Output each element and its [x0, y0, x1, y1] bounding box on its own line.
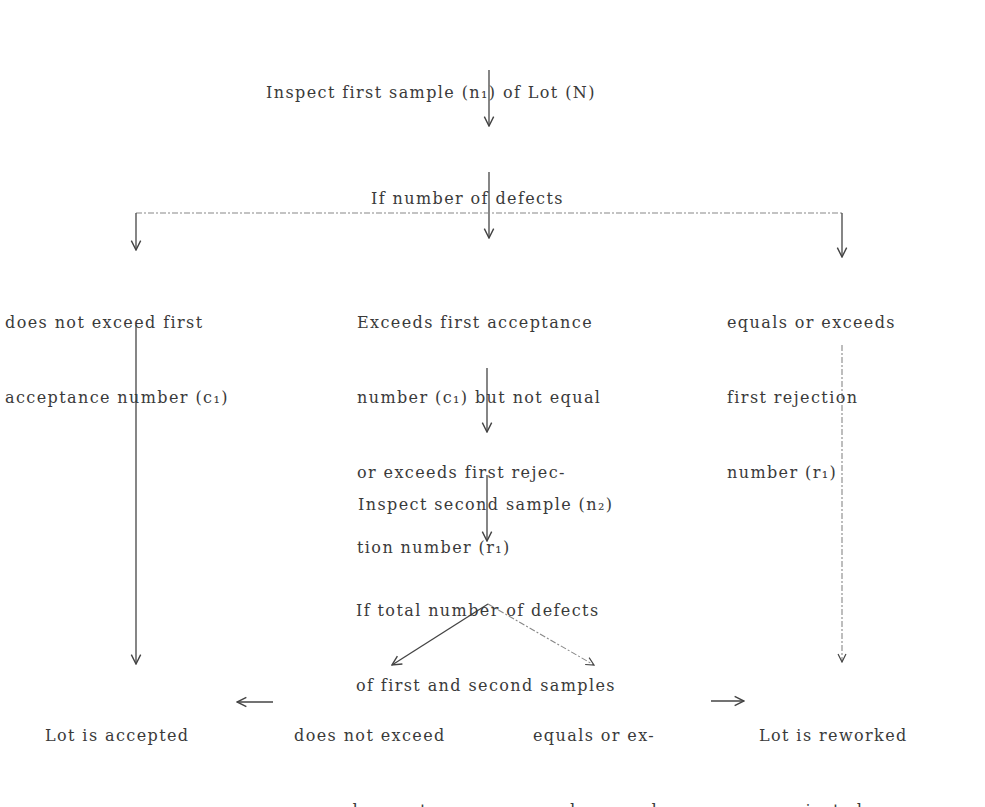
flowchart-canvas: Inspect first sample (n₁) of Lot (N) If …: [0, 0, 985, 807]
node-text: second acceptance: [294, 798, 472, 807]
node-if-number-of-defects: If number of defects: [371, 136, 564, 261]
node-text: If number of defects: [371, 186, 564, 211]
node-text: does not exceed first: [5, 310, 229, 335]
node-text: number (r₁): [727, 460, 896, 485]
node-text: acceptance number (c₁): [5, 385, 229, 410]
node-text: ceeds second: [533, 798, 671, 807]
node-text: Exceeds first acceptance: [357, 310, 601, 335]
node-text: Lot is accepted: [45, 723, 190, 748]
node-text: Lot is reworked: [759, 723, 908, 748]
node-equals-or-exceeds-r2: equals or ex- ceeds second rejection num…: [533, 673, 671, 807]
node-does-not-exceed-c1: does not exceed first acceptance number …: [5, 260, 229, 460]
node-text: first rejection: [727, 385, 896, 410]
node-text: Inspect second sample (n₂): [358, 492, 613, 517]
node-text: equals or exceeds: [727, 310, 896, 335]
node-equals-or-exceeds-r1: equals or exceeds first rejection number…: [727, 260, 896, 535]
node-lot-accepted: Lot is accepted: [45, 673, 190, 798]
node-text: does not exceed: [294, 723, 472, 748]
node-lot-reworked-or-rejected: Lot is reworked or rejected: [759, 673, 908, 807]
node-text: or rejected: [759, 798, 908, 807]
node-text: number (c₁) but not equal: [357, 385, 601, 410]
node-does-not-exceed-c2: does not exceed second acceptance number…: [294, 673, 472, 807]
node-text: If total number of defects: [356, 598, 616, 623]
node-text: equals or ex-: [533, 723, 671, 748]
node-text: Inspect first sample (n₁) of Lot (N): [266, 80, 596, 105]
